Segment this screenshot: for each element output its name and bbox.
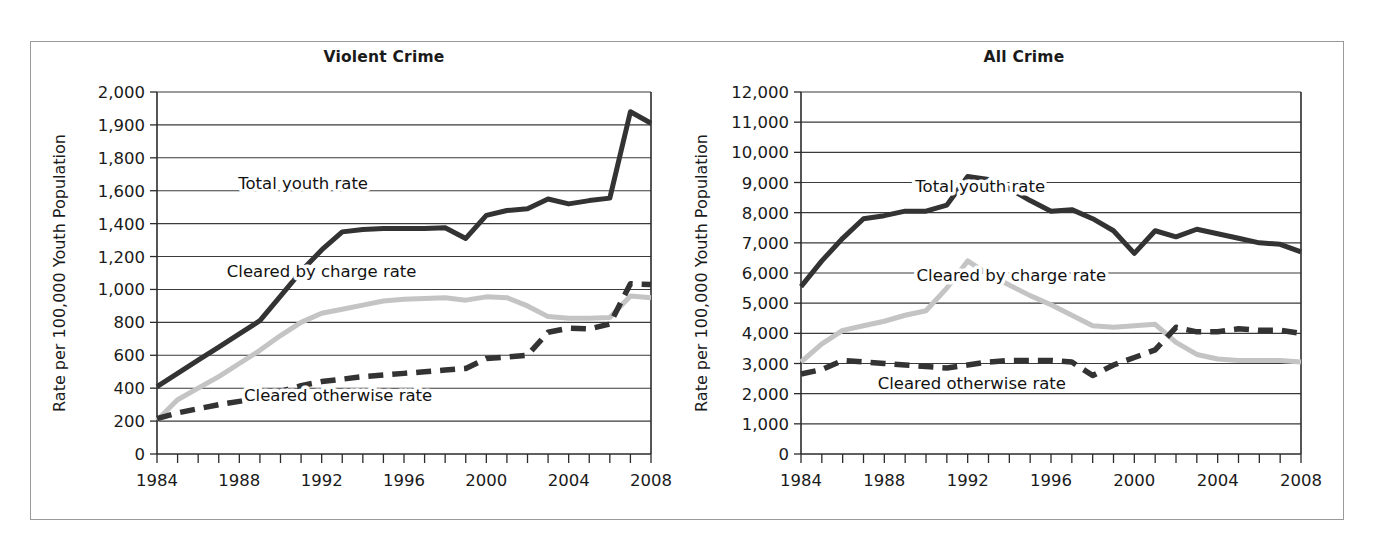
- chart-svg-all-crime: 01,0002,0003,0004,0005,0006,0007,0008,00…: [681, 42, 1337, 521]
- x-tick-label: 1984: [136, 471, 178, 490]
- x-tick-label: 2004: [548, 471, 590, 490]
- annotation-label: Cleared by charge rate: [227, 262, 417, 281]
- x-tick-label: 2008: [630, 471, 672, 490]
- y-tick-label: 600: [114, 346, 146, 365]
- y-tick-label: 5,000: [742, 294, 789, 313]
- series-cleared-otherwise-rate: [801, 327, 1301, 375]
- y-axis-ticks: 02004006008001,0001,2001,4001,6001,8001,…: [98, 83, 157, 464]
- chart-panel-all-crime: All Crime 01,0002,0003,0004,0005,0006,00…: [681, 42, 1337, 521]
- y-tick-label: 3,000: [742, 355, 789, 374]
- y-tick-label: 1,900: [98, 116, 145, 135]
- y-tick-label: 1,400: [98, 215, 145, 234]
- x-tick-label: 1988: [863, 471, 905, 490]
- y-tick-label: 9,000: [742, 174, 789, 193]
- y-tick-label: 1,200: [98, 248, 145, 267]
- chart-title-violent-crime: Violent Crime: [39, 48, 687, 66]
- y-tick-label: 7,000: [742, 234, 789, 253]
- x-tick-label: 1992: [947, 471, 989, 490]
- figure-frame: Violent Crime 02004006008001,0001,2001,4…: [30, 41, 1344, 520]
- y-tick-label: 4,000: [742, 324, 789, 343]
- x-tick-label: 1984: [780, 471, 822, 490]
- y-tick-label: 1,800: [98, 149, 145, 168]
- y-tick-label: 10,000: [731, 143, 789, 162]
- y-tick-label: 1,600: [98, 182, 145, 201]
- chart-svg-violent-crime: 02004006008001,0001,2001,4001,6001,8001,…: [39, 42, 687, 521]
- annotation-label: Cleared by charge rate: [917, 266, 1107, 285]
- figure-root: Violent Crime 02004006008001,0001,2001,4…: [0, 0, 1376, 547]
- y-tick-label: 1,000: [742, 415, 789, 434]
- x-tick-label: 1996: [383, 471, 425, 490]
- x-tick-label: 1992: [301, 471, 343, 490]
- chart-panel-violent-crime: Violent Crime 02004006008001,0001,2001,4…: [39, 42, 687, 521]
- annotation-label: Cleared otherwise rate: [878, 374, 1066, 393]
- x-axis-ticks: 1984198819921996200020042008: [136, 454, 672, 490]
- x-tick-label: 2008: [1280, 471, 1322, 490]
- chart-title-all-crime: All Crime: [681, 48, 1337, 66]
- x-axis-ticks: 1984198819921996200020042008: [780, 454, 1322, 490]
- x-tick-label: 1996: [1030, 471, 1072, 490]
- x-tick-label: 1988: [218, 471, 260, 490]
- y-axis-title: Rate per 100,000 Youth Population: [692, 134, 711, 412]
- y-tick-label: 0: [779, 445, 790, 464]
- annotation-label: Total youth rate: [914, 177, 1045, 196]
- y-tick-label: 2,000: [742, 385, 789, 404]
- y-tick-label: 1,000: [98, 280, 145, 299]
- annotation-label: Cleared otherwise rate: [244, 386, 432, 405]
- x-tick-label: 2004: [1197, 471, 1239, 490]
- y-tick-label: 400: [114, 379, 146, 398]
- annotation-label: Total youth rate: [237, 174, 368, 193]
- y-tick-label: 2,000: [98, 83, 145, 102]
- series-total-youth-rate: [157, 112, 651, 387]
- x-tick-label: 2000: [1113, 471, 1155, 490]
- y-tick-label: 800: [114, 313, 146, 332]
- y-axis-title: Rate per 100,000 Youth Population: [50, 134, 69, 412]
- x-tick-label: 2000: [465, 471, 507, 490]
- y-tick-label: 12,000: [731, 83, 789, 102]
- y-tick-label: 200: [114, 412, 146, 431]
- y-tick-label: 8,000: [742, 204, 789, 223]
- y-tick-label: 11,000: [731, 113, 789, 132]
- y-tick-label: 6,000: [742, 264, 789, 283]
- y-tick-label: 0: [135, 445, 146, 464]
- y-axis-ticks: 01,0002,0003,0004,0005,0006,0007,0008,00…: [731, 83, 801, 464]
